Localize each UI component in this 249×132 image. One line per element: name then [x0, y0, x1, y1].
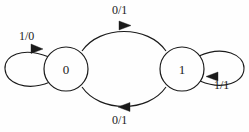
transition-label-self-loop-right: 1/1 [214, 79, 229, 92]
transition-self-loop-left-path [5, 52, 50, 86]
transition-self-loop-left [5, 44, 50, 86]
state-diagram-canvas: 0 1 1/0 0/1 0/1 1/1 [0, 0, 249, 132]
state-node-0-label: 0 [63, 62, 70, 77]
transition-arc-top-path [82, 32, 166, 52]
state-node-1[interactable]: 1 [160, 47, 204, 91]
transition-label-self-loop-left: 1/0 [19, 30, 34, 43]
state-node-1-label: 1 [179, 62, 186, 77]
arrowhead-left-bottom [118, 103, 130, 112]
state-node-0[interactable]: 0 [44, 47, 88, 91]
transition-arc-bottom [82, 87, 166, 112]
arrowhead-right-self-left [31, 44, 43, 54]
transition-arc-top [82, 21, 166, 51]
transition-label-top: 0/1 [112, 4, 127, 17]
transition-arc-bottom-path [82, 87, 166, 107]
arrowhead-right-top [119, 21, 131, 30]
transition-label-bottom: 0/1 [112, 114, 127, 127]
